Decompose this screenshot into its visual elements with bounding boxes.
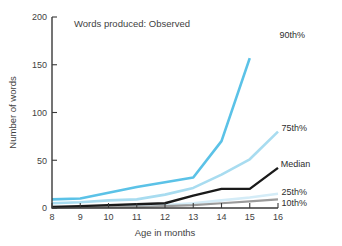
words-produced-line-chart: 0501001502008910111213141516Age in month… bbox=[0, 0, 342, 246]
series-label-75th: 75th% bbox=[281, 123, 307, 133]
y-axis-title: Number of words bbox=[7, 76, 18, 149]
chart-container: 0501001502008910111213141516Age in month… bbox=[0, 0, 342, 246]
x-tick-label: 13 bbox=[188, 212, 198, 222]
y-tick-label: 200 bbox=[32, 12, 47, 22]
x-tick-label: 8 bbox=[49, 212, 54, 222]
axis-layer bbox=[52, 17, 278, 208]
x-axis-title: Age in months bbox=[135, 227, 196, 238]
y-tick-label: 150 bbox=[32, 60, 47, 70]
y-tick-label: 0 bbox=[42, 203, 47, 213]
x-tick-label: 15 bbox=[245, 212, 255, 222]
series-layer bbox=[52, 58, 278, 208]
series-line-90th bbox=[52, 58, 250, 199]
y-tick-label: 50 bbox=[37, 156, 47, 166]
chart-title: Words produced: Observed bbox=[74, 18, 190, 29]
axis-lines bbox=[52, 17, 278, 208]
x-tick-label: 10 bbox=[103, 212, 113, 222]
series-label-25th: 25th% bbox=[281, 187, 307, 197]
series-label-10th: 10th% bbox=[281, 198, 307, 208]
x-tick-label: 9 bbox=[78, 212, 83, 222]
series-label-median: Median bbox=[281, 159, 311, 169]
x-tick-label: 11 bbox=[132, 212, 141, 222]
x-tick-label: 14 bbox=[216, 212, 226, 222]
series-line-75th bbox=[52, 132, 278, 204]
x-tick-label: 12 bbox=[160, 212, 170, 222]
series-label-90th: 90th% bbox=[279, 30, 305, 40]
y-tick-label: 100 bbox=[32, 108, 47, 118]
x-tick-label: 16 bbox=[273, 212, 283, 222]
